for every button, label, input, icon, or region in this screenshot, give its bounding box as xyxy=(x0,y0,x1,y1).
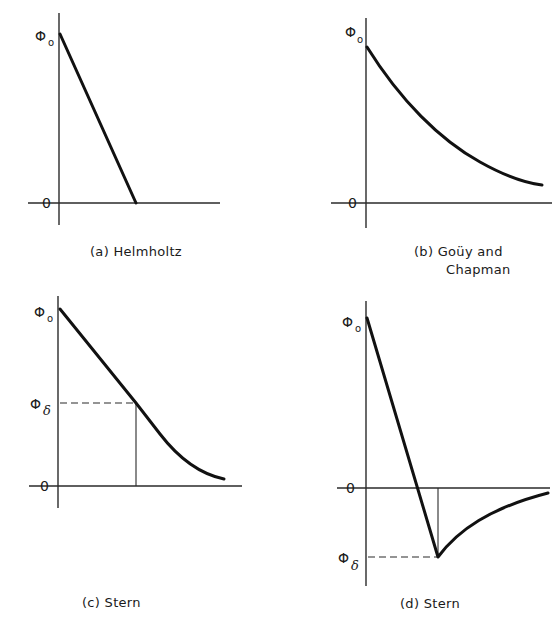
zero-label: 0 xyxy=(348,195,357,211)
potential-curve xyxy=(60,309,224,479)
phi-delta-label: Φ xyxy=(338,550,349,566)
phi-zero-subscript: o xyxy=(355,323,361,334)
phi-zero-subscript: o xyxy=(48,37,54,48)
panel-c-stern: Φ o Φ δ 0 (c) Stern xyxy=(29,296,242,610)
caption-d: (d) Stern xyxy=(400,596,460,611)
phi-zero-label: Φ xyxy=(34,304,45,320)
phi-zero-label: Φ xyxy=(35,28,46,44)
phi-zero-subscript: o xyxy=(47,313,53,324)
double-layer-potential-diagrams: Φ o 0 (a) Helmholtz Φ o 0 (b) Goüy and C… xyxy=(0,0,559,623)
phi-delta-subscript: δ xyxy=(351,558,359,573)
panel-a-helmholtz: Φ o 0 (a) Helmholtz xyxy=(28,13,220,259)
caption-b-line2: Chapman xyxy=(446,262,511,277)
potential-curve xyxy=(60,34,136,203)
phi-zero-label: Φ xyxy=(342,314,353,330)
potential-curve xyxy=(367,47,542,185)
phi-delta-label: Φ xyxy=(30,396,41,412)
zero-label: 0 xyxy=(346,480,355,496)
panel-b-gouy-chapman: Φ o 0 (b) Goüy and Chapman xyxy=(331,18,552,277)
potential-curve xyxy=(367,318,548,557)
phi-zero-subscript: o xyxy=(357,34,363,45)
phi-delta-subscript: δ xyxy=(43,403,51,418)
panel-d-stern: Φ o Φ δ 0 (d) Stern xyxy=(337,301,550,611)
caption-a: (a) Helmholtz xyxy=(90,244,182,259)
zero-label: 0 xyxy=(40,478,49,494)
zero-label: 0 xyxy=(42,195,51,211)
caption-b-line1: (b) Goüy and xyxy=(414,244,503,259)
phi-zero-label: Φ xyxy=(345,24,356,40)
caption-c: (c) Stern xyxy=(82,595,141,610)
